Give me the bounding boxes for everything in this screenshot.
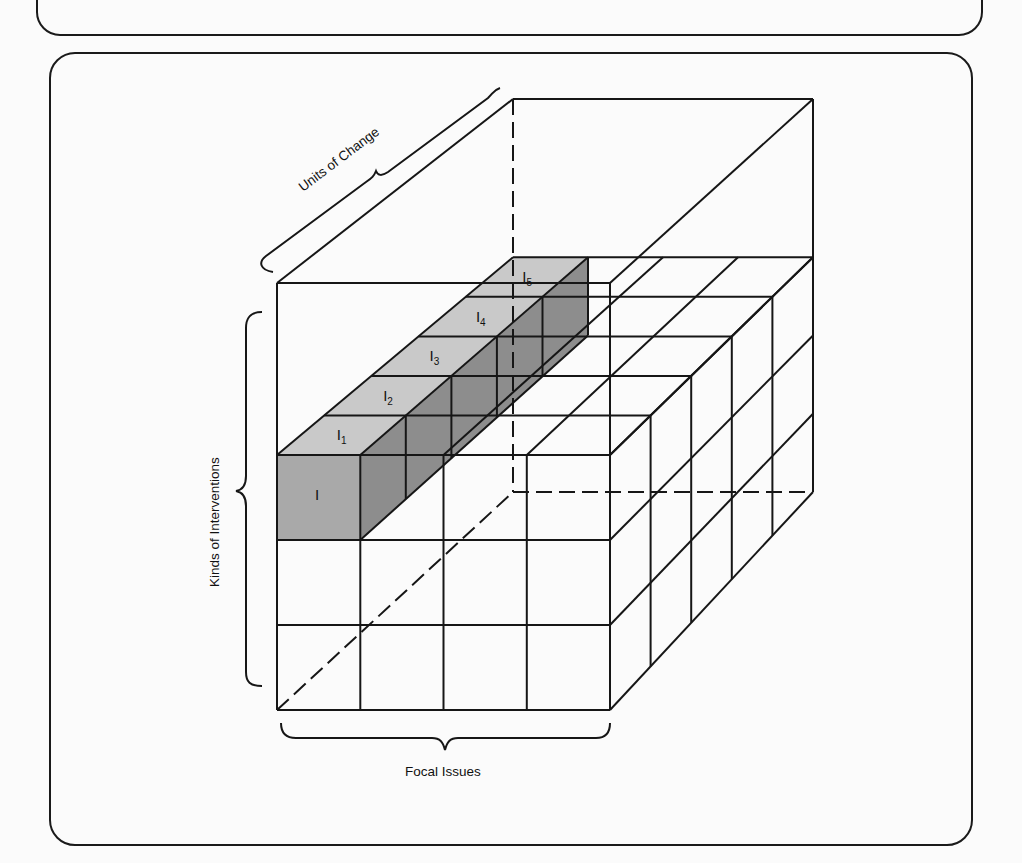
focal-issues-label: Focal Issues [405, 764, 481, 779]
units-of-change-brace [261, 88, 500, 272]
focal-issues-brace [281, 723, 610, 750]
intervention-front-label: I [315, 486, 319, 503]
kinds-of-interventions-label: Kinds of Interventions [207, 457, 222, 587]
kinds-of-interventions-brace [236, 312, 262, 686]
highlighted-intervention-column [277, 257, 588, 540]
intervention-cube-diagram: Units of Change Kinds of Interventions F… [0, 0, 1022, 863]
units-of-change-label: Units of Change [296, 124, 382, 194]
